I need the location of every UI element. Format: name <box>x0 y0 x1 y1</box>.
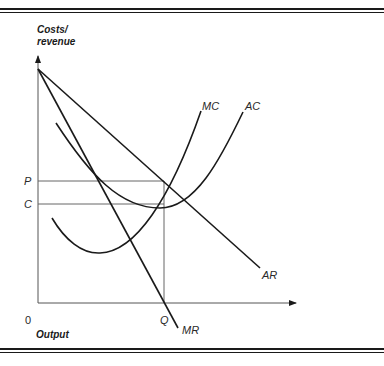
diagram-frame: Costs/ revenue P C MC AC AR MR 0 Q Outpu… <box>0 0 384 366</box>
y-axis-label-line2: revenue <box>37 37 75 47</box>
ac-curve <box>56 112 243 208</box>
cost-label: C <box>24 199 32 210</box>
y-axis-label-line1: Costs/ <box>37 25 68 35</box>
ar-curve <box>38 69 260 268</box>
diagram-canvas <box>0 0 384 366</box>
x-axis-label: Output <box>36 330 69 340</box>
mc-label: MC <box>202 101 219 112</box>
origin-label: 0 <box>25 315 31 326</box>
mr-label: MR <box>182 325 199 336</box>
ar-label: AR <box>262 270 277 281</box>
price-label: P <box>24 176 31 187</box>
quantity-label: Q <box>160 315 169 326</box>
mr-curve <box>38 69 178 328</box>
ac-label: AC <box>245 101 260 112</box>
